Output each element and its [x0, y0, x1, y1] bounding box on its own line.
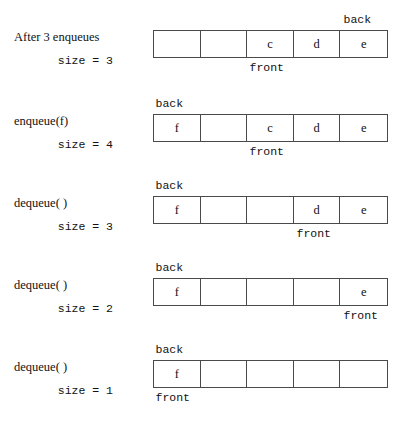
- queue-cell: [247, 197, 294, 223]
- back-pointer-label: back: [156, 261, 184, 275]
- operation-label: dequeue( ): [14, 360, 67, 374]
- front-pointer-label: front: [156, 391, 191, 405]
- queue-cell: c: [247, 115, 294, 141]
- queue-cell: [201, 361, 248, 387]
- queue-cell: f: [154, 197, 201, 223]
- queue-cell: [340, 361, 387, 387]
- queue-cell: [201, 197, 248, 223]
- queue-cell: f: [154, 279, 201, 305]
- queue-cell: d: [294, 31, 341, 57]
- queue-cell: [247, 279, 294, 305]
- queue-cell: d: [294, 197, 341, 223]
- size-label: size = 1: [0, 384, 113, 398]
- front-pointer-label: front: [250, 61, 285, 75]
- front-pointer-label: front: [250, 145, 285, 159]
- queue-cell: [294, 279, 341, 305]
- back-pointer-label: back: [156, 97, 184, 111]
- front-pointer-label: front: [297, 227, 332, 241]
- queue-cell: e: [340, 115, 387, 141]
- queue-cell: [201, 31, 248, 57]
- operation-label: dequeue( ): [14, 196, 67, 210]
- queue-cell: [154, 31, 201, 57]
- queue-array: fcde: [153, 114, 388, 142]
- queue-cell: f: [154, 361, 201, 387]
- queue-cell: [247, 361, 294, 387]
- queue-diagram: After 3 enqueuessize = 3cdebackfrontenqu…: [0, 0, 404, 426]
- queue-cell: d: [294, 115, 341, 141]
- size-label: size = 4: [0, 138, 113, 152]
- queue-array: fe: [153, 278, 388, 306]
- back-pointer-label: back: [344, 13, 372, 27]
- front-pointer-label: front: [344, 309, 379, 323]
- queue-cell: [201, 279, 248, 305]
- operation-label: enqueue(f): [14, 114, 68, 128]
- queue-cell: [201, 115, 248, 141]
- queue-cell: e: [340, 31, 387, 57]
- queue-cell: c: [247, 31, 294, 57]
- back-pointer-label: back: [156, 179, 184, 193]
- operation-label: dequeue( ): [14, 278, 67, 292]
- queue-array: fde: [153, 196, 388, 224]
- queue-array: cde: [153, 30, 388, 58]
- size-label: size = 3: [0, 220, 113, 234]
- queue-cell: e: [340, 279, 387, 305]
- queue-cell: e: [340, 197, 387, 223]
- queue-cell: [294, 361, 341, 387]
- size-label: size = 2: [0, 302, 113, 316]
- size-label: size = 3: [0, 54, 113, 68]
- operation-label: After 3 enqueues: [14, 30, 99, 44]
- back-pointer-label: back: [156, 343, 184, 357]
- queue-array: f: [153, 360, 388, 388]
- queue-cell: f: [154, 115, 201, 141]
